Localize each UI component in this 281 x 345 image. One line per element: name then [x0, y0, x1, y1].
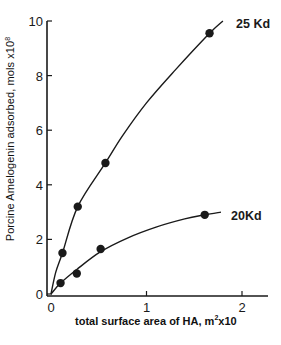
chart-plot-area: 024681001225 Kd20Kd: [0, 0, 281, 345]
x-tick-label: 2: [238, 300, 245, 315]
x-tick-label: 0: [47, 300, 54, 315]
y-axis-label-wrap: Porcine Amelogenin adsorbed, mols x108: [3, 8, 17, 270]
y-tick-label: 6: [36, 123, 43, 138]
series-20kd-point: [96, 245, 104, 253]
series-label-25kd: 25 Kd: [236, 17, 270, 31]
series-25kd-point: [205, 29, 213, 37]
x-tick-label: 1: [143, 300, 150, 315]
series-25kd-curve: [51, 21, 223, 294]
y-tick-label: 4: [36, 178, 43, 193]
series-label-20kd: 20Kd: [231, 209, 262, 223]
x-axis-label: total surface area of HA, m2x10: [75, 314, 237, 327]
y-tick-label: 2: [36, 232, 43, 247]
series-20kd-point: [56, 279, 64, 287]
series-20kd-point: [73, 269, 81, 277]
y-axis-label: Porcine Amelogenin adsorbed, mols x108: [4, 37, 17, 242]
y-tick-label: 10: [29, 14, 43, 29]
series-25kd-point: [74, 202, 82, 210]
series-20kd-point: [201, 211, 209, 219]
y-tick-label: 8: [36, 69, 43, 84]
series-20kd-curve: [51, 212, 221, 294]
series-25kd-point: [58, 249, 66, 257]
series-25kd-point: [101, 159, 109, 167]
y-tick-label: 0: [36, 287, 43, 302]
